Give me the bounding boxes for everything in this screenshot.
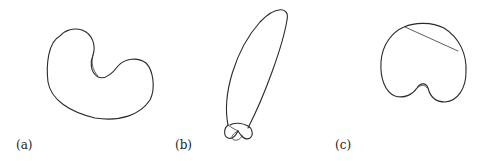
panel-label-c: (c): [335, 139, 351, 151]
notched-curve-figure: [320, 0, 484, 161]
ellipse-loop-figure: [160, 0, 320, 161]
panel-a: (a): [0, 0, 165, 161]
kidney-curve-figure: [0, 0, 165, 161]
panel-b: (b): [160, 0, 320, 161]
panel-c: (c): [320, 0, 484, 161]
panel-label-a: (a): [16, 139, 33, 151]
panel-label-b: (b): [175, 139, 192, 151]
